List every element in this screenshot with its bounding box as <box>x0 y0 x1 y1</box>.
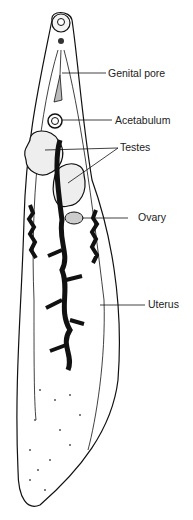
label-ovary: Ovary <box>138 211 166 223</box>
ovary-shape <box>65 212 83 224</box>
label-uterus: Uterus <box>148 298 179 310</box>
label-acetabulum: Acetabulum <box>115 114 170 126</box>
body-outline <box>17 13 120 507</box>
label-genital-pore: Genital pore <box>108 67 165 79</box>
label-testes: Testes <box>120 141 150 153</box>
